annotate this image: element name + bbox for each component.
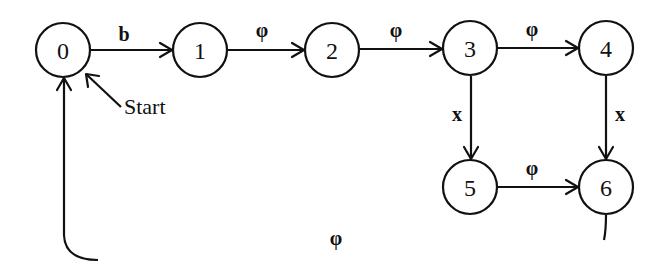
state-3: 3 [443,21,497,75]
transition-label: x [615,103,625,125]
state-label: 6 [600,175,612,201]
transition-5-6: φ [498,157,578,194]
transition-label: b [118,23,129,45]
transition-label: φ [390,19,402,42]
transition-label: φ [526,157,538,180]
state-label: 4 [600,36,612,62]
transition-3-5: x [452,76,478,159]
start-label: Start [124,94,166,119]
transition-label: φ [256,19,268,42]
transition-4-6: x [599,76,625,159]
transition-0-1: b [90,23,172,57]
state-diagram: b φ φ φ x x φ φ [0,0,665,276]
state-6: 6 [579,160,633,214]
start-indicator: Start [86,74,166,119]
transition-1-2: φ [228,19,304,57]
state-label: 2 [326,38,338,64]
transition-label: φ [526,18,538,41]
state-4: 4 [579,21,633,75]
state-label: 3 [464,36,476,62]
state-1: 1 [173,23,227,77]
transition-label: x [452,103,462,125]
state-label: 0 [57,38,69,64]
transition-2-3: φ [360,19,442,56]
transition-label: φ [330,227,342,250]
state-label: 5 [464,175,476,201]
state-2: 2 [305,23,359,77]
state-5: 5 [443,160,497,214]
state-label: 1 [194,38,206,64]
transition-3-4: φ [498,18,578,55]
state-0: 0 [36,23,90,77]
